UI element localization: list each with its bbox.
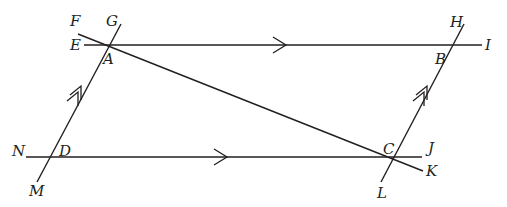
line-LH [381,24,464,182]
label-N: N [11,142,26,160]
label-A: A [101,50,114,68]
line-FK [78,34,423,171]
label-E: E [69,36,81,54]
label-C: C [383,140,395,158]
label-M: M [28,182,45,200]
label-G: G [106,12,118,30]
label-F: F [69,12,81,30]
label-L: L [376,184,387,202]
label-J: J [425,139,435,157]
geometry-diagram: F G E A H I B N D M C J L K [0,0,507,207]
label-K: K [425,162,438,180]
label-D: D [58,142,71,160]
diagram-canvas: F G E A H I B N D M C J L K [0,0,507,207]
label-H: H [449,13,464,31]
label-B: B [434,50,446,68]
label-I: I [484,36,492,54]
double-arrow-icon-MG-1 [67,92,78,106]
